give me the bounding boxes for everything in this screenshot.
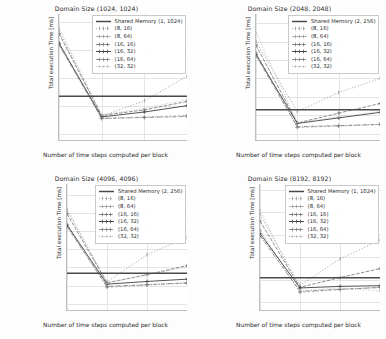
data-point-marker — [298, 42, 302, 46]
data-point-marker — [298, 50, 302, 54]
legend-item[interactable]: (16, 64) — [288, 225, 375, 233]
legend-item[interactable]: (16, 32) — [98, 218, 182, 226]
legend-item[interactable]: (16, 16) — [288, 210, 375, 218]
data-point-marker — [292, 236, 294, 238]
plot-area: 600007000080000900001000001100001234Shar… — [259, 184, 380, 311]
legend-item[interactable]: (8, 64) — [98, 203, 182, 211]
legend-item[interactable]: Shared Memory (1, 1024) — [288, 188, 375, 196]
x-axis-tick-mark — [147, 310, 148, 311]
legend-item[interactable]: (16, 32) — [95, 48, 182, 56]
legend-item[interactable]: (16, 32) — [288, 218, 375, 226]
legend-label: Shared Memory (1, 1024) — [115, 18, 183, 25]
data-point-marker — [105, 227, 109, 231]
x-axis-tick-mark — [300, 310, 301, 311]
data-point-marker — [59, 26, 60, 28]
legend-line-sample — [95, 48, 112, 55]
legend-line-sample — [288, 218, 305, 225]
data-point-marker — [145, 283, 149, 287]
data-point-marker — [291, 227, 295, 231]
data-point-marker — [106, 50, 110, 54]
legend-item[interactable]: (8, 64) — [288, 203, 375, 211]
data-point-marker — [378, 267, 380, 271]
legend-line-sample — [95, 63, 112, 70]
legend: Shared Memory (2, 256)(8, 16)(8, 64)(16,… — [95, 185, 186, 244]
data-point-marker — [185, 281, 187, 285]
legend-label: (16, 16) — [308, 211, 329, 218]
legend-item[interactable]: (32, 32) — [291, 63, 375, 71]
legend-line-sample — [95, 56, 112, 63]
legend-label: (16, 16) — [118, 211, 139, 218]
data-point-marker — [105, 220, 109, 224]
data-point-marker — [302, 57, 306, 61]
legend-item[interactable]: (16, 16) — [291, 40, 375, 48]
plot-area: 35004000450050005500600065001234Shared M… — [255, 14, 380, 141]
legend-item[interactable]: (8, 64) — [95, 33, 182, 41]
legend-item[interactable]: (8, 64) — [291, 33, 375, 41]
data-point-marker — [337, 111, 341, 115]
data-point-marker — [109, 212, 113, 216]
data-point-marker — [295, 66, 297, 68]
legend-item[interactable]: (32, 32) — [95, 63, 182, 71]
legend-line-sample — [291, 18, 308, 25]
data-point-marker — [337, 124, 341, 128]
legend: Shared Memory (1, 1024)(8, 16)(8, 64)(16… — [285, 185, 379, 244]
legend-line-sample — [288, 188, 305, 195]
data-point-marker — [338, 116, 340, 118]
data-point-marker — [98, 57, 102, 61]
data-point-marker — [110, 236, 112, 238]
legend-line-sample — [288, 203, 305, 210]
data-point-marker — [186, 266, 187, 268]
legend-label: (16, 64) — [311, 56, 332, 63]
legend-item[interactable]: (16, 16) — [98, 210, 182, 218]
data-point-marker — [294, 50, 298, 54]
x-axis-tick-mark — [102, 140, 103, 141]
legend-item[interactable]: (8, 16) — [291, 25, 375, 33]
data-point-marker — [102, 35, 106, 39]
y-axis-label: Total execution Time [ms] — [245, 0, 251, 108]
data-point-marker — [294, 35, 298, 39]
legend-label: (16, 16) — [115, 41, 136, 48]
data-point-marker — [109, 220, 113, 224]
subplot-title: Domain Size (8192, 8192) — [193, 175, 386, 182]
legend-line-sample — [291, 48, 308, 55]
legend: Shared Memory (2, 256)(8, 16)(8, 64)(16,… — [288, 15, 379, 74]
data-point-marker — [146, 274, 148, 276]
legend-item[interactable]: (16, 16) — [95, 40, 182, 48]
data-point-marker — [339, 287, 341, 289]
legend-line-sample — [291, 63, 308, 70]
data-point-marker — [101, 227, 105, 231]
data-point-marker — [378, 102, 380, 106]
x-axis-label: Number of time steps computed per block — [211, 152, 386, 158]
data-point-marker — [106, 57, 110, 61]
legend-line-sample — [95, 33, 112, 40]
legend-item[interactable]: (16, 64) — [98, 225, 182, 233]
legend-item[interactable]: (32, 32) — [98, 233, 182, 241]
legend-item[interactable]: (8, 16) — [95, 25, 182, 33]
subplot-2048: Domain Size (2048, 2048)3500400045005000… — [193, 0, 386, 169]
legend-line-sample — [288, 233, 305, 240]
data-point-marker — [302, 50, 306, 54]
legend-line-sample — [98, 188, 115, 195]
legend-item[interactable]: (16, 32) — [291, 48, 375, 56]
legend-item[interactable]: (32, 32) — [288, 233, 375, 241]
legend-item[interactable]: (16, 64) — [95, 55, 182, 63]
legend-line-sample — [98, 226, 115, 233]
legend-label: (32, 32) — [311, 63, 332, 70]
legend-item[interactable]: Shared Memory (1, 1024) — [95, 18, 182, 26]
data-point-marker — [142, 110, 146, 114]
data-point-marker — [299, 205, 303, 209]
data-point-marker — [102, 236, 104, 238]
legend-label: (32, 32) — [308, 233, 329, 240]
legend-item[interactable]: Shared Memory (2, 256) — [98, 188, 182, 196]
legend-item[interactable]: (8, 16) — [288, 195, 375, 203]
legend-item[interactable]: (8, 16) — [98, 195, 182, 203]
data-point-marker — [98, 42, 102, 46]
plot-area: 140001600018000200002200024000260001234S… — [66, 184, 187, 311]
legend-item[interactable]: Shared Memory (2, 256) — [291, 18, 375, 26]
data-point-marker — [185, 277, 187, 281]
legend-label: (8, 16) — [118, 195, 136, 202]
legend-item[interactable]: (16, 64) — [291, 55, 375, 63]
legend-line-sample — [95, 25, 112, 32]
data-point-marker — [102, 50, 106, 54]
x-axis-label: Number of time steps computed per block — [18, 322, 193, 328]
